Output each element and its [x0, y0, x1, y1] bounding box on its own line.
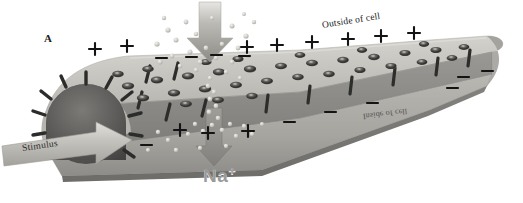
diagram-canvas [0, 0, 523, 203]
axon-membrane-diagram: A Outside of cell Inside of cell Stimulu… [0, 0, 523, 203]
